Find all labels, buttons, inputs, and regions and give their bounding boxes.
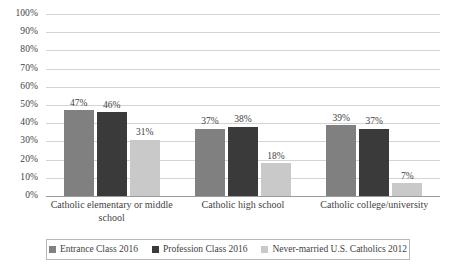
y-axis-tick-label: 100% [15, 9, 38, 19]
bar[interactable] [261, 163, 291, 196]
bar-value-label: 37% [366, 117, 383, 127]
legend-swatch-icon [49, 246, 56, 253]
bar-value-label: 39% [333, 114, 350, 124]
axis-baseline [46, 196, 440, 197]
bar[interactable] [326, 125, 356, 196]
bar[interactable] [64, 110, 94, 196]
bar-value-label: 37% [201, 117, 218, 127]
bar[interactable] [392, 183, 422, 196]
legend-swatch-icon [152, 246, 159, 253]
bar-slot: 39% [326, 14, 356, 196]
bar-value-label: 47% [70, 99, 87, 109]
bar-slot: 31% [130, 14, 160, 196]
y-axis: 0%10%20%30%40%50%60%70%80%90%100% [0, 14, 42, 196]
bar-value-label: 7% [401, 172, 414, 182]
legend-label: Profession Class 2016 [163, 245, 247, 255]
bar-slot: 38% [228, 14, 258, 196]
y-axis-tick-label: 70% [20, 64, 38, 74]
bar-value-label: 38% [234, 115, 251, 125]
bar-group: 37%38%18% [177, 14, 308, 196]
x-axis-category-label: Catholic high school [177, 199, 308, 212]
legend-swatch-icon [261, 246, 268, 253]
bar-slot: 37% [359, 14, 389, 196]
legend-item[interactable]: Entrance Class 2016 [49, 245, 138, 255]
bar-slot: 37% [195, 14, 225, 196]
bar-slot: 46% [97, 14, 127, 196]
y-axis-tick-label: 20% [20, 155, 38, 165]
bar-value-label: 46% [103, 101, 120, 111]
bar-value-label: 18% [267, 152, 284, 162]
bar-slot: 18% [261, 14, 291, 196]
bar-value-label: 31% [136, 128, 153, 138]
bar[interactable] [359, 129, 389, 196]
y-axis-tick-label: 80% [20, 46, 38, 56]
legend-label: Entrance Class 2016 [60, 245, 138, 255]
y-axis-tick-label: 10% [20, 173, 38, 183]
y-axis-tick-label: 0% [25, 191, 38, 201]
bar-slot: 47% [64, 14, 94, 196]
bar-slot: 7% [392, 14, 422, 196]
bar-group: 39%37%7% [309, 14, 440, 196]
bar-group: 47%46%31% [46, 14, 177, 196]
y-axis-tick-label: 30% [20, 137, 38, 147]
bar[interactable] [130, 140, 160, 196]
chart-legend: Entrance Class 2016Profession Class 2016… [46, 239, 410, 260]
x-axis: Catholic elementary or middle schoolCath… [46, 199, 440, 229]
y-axis-tick-label: 60% [20, 82, 38, 92]
y-axis-tick-label: 50% [20, 100, 38, 110]
x-axis-category-label: Catholic elementary or middle school [46, 199, 177, 224]
bar[interactable] [228, 127, 258, 196]
y-axis-tick-label: 40% [20, 118, 38, 128]
x-axis-category-label: Catholic college/university [309, 199, 440, 212]
y-axis-tick-label: 90% [20, 27, 38, 37]
bar[interactable] [195, 129, 225, 196]
bar-chart: 0%10%20%30%40%50%60%70%80%90%100% 47%46%… [0, 0, 456, 271]
bar[interactable] [97, 112, 127, 196]
bars-layer: 47%46%31%37%38%18%39%37%7% [46, 14, 440, 196]
legend-item[interactable]: Profession Class 2016 [152, 245, 247, 255]
legend-item[interactable]: Never-married U.S. Catholics 2012 [261, 245, 407, 255]
legend-label: Never-married U.S. Catholics 2012 [272, 245, 407, 255]
